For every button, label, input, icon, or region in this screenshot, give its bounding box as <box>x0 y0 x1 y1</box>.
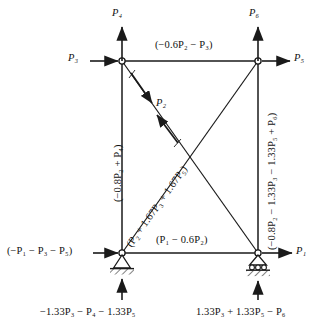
force-label-p1: P₁ <box>296 246 306 257</box>
member-label-left-column: (−0.8P₂ + P₄) <box>113 144 124 202</box>
reaction-label-left-vertical: −1.33P₃ − P₄ − 1.33P₅ <box>40 307 136 318</box>
member-label-bottom-chord: (P₁ − 0.6P₂) <box>156 235 208 246</box>
member-label-top-chord: (−0.6P₂ − P₃) <box>155 40 213 51</box>
member-label-right-column: (−0.8P₂ − 1.33P₃ − 1.33P₅ + P₆) <box>267 113 278 250</box>
force-label-p3: P₃ <box>68 53 78 64</box>
pin-support-left <box>110 255 134 275</box>
force-label-p6: P₆ <box>249 8 259 19</box>
force-label-p2: P₂ <box>156 98 166 109</box>
reaction-label-right-vertical: 1.33P₃ + 1.33P₅ − P₆ <box>196 307 286 318</box>
force-label-p4: P₄ <box>112 8 122 19</box>
reaction-label-left-horizontal: (−P₁ − P₃ − P₅) <box>7 246 72 257</box>
force-label-p5: P₅ <box>294 53 304 64</box>
roller-support-right <box>246 255 270 276</box>
